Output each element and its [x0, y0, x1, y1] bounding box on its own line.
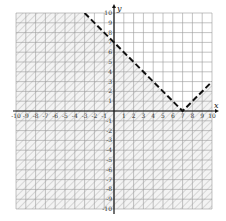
svg-text:10: 10	[104, 9, 112, 16]
svg-text:4: 4	[151, 112, 155, 119]
svg-text:10: 10	[208, 112, 216, 119]
y-axis-label: y	[116, 4, 122, 13]
svg-text:-6: -6	[52, 112, 58, 119]
svg-text:-10: -10	[102, 205, 112, 212]
svg-text:-5: -5	[62, 112, 68, 119]
svg-text:-8: -8	[33, 112, 39, 119]
svg-text:6: 6	[108, 48, 112, 55]
svg-text:1: 1	[108, 97, 112, 104]
svg-text:-7: -7	[106, 176, 112, 183]
svg-text:-9: -9	[23, 112, 29, 119]
svg-text:6: 6	[171, 112, 175, 119]
svg-text:-8: -8	[106, 185, 112, 192]
svg-text:-2: -2	[106, 127, 112, 134]
svg-text:8: 8	[190, 112, 194, 119]
svg-text:2: 2	[108, 87, 112, 94]
x-axis-label: x	[214, 101, 219, 110]
svg-text:-2: -2	[91, 112, 97, 119]
svg-text:-9: -9	[106, 195, 112, 202]
svg-text:8: 8	[108, 29, 112, 36]
svg-text:-6: -6	[106, 166, 112, 173]
svg-text:5: 5	[161, 112, 165, 119]
svg-text:-1: -1	[106, 117, 112, 124]
svg-text:7: 7	[181, 112, 185, 119]
svg-text:-3: -3	[82, 112, 88, 119]
svg-text:4: 4	[108, 68, 112, 75]
svg-text:9: 9	[108, 19, 112, 26]
svg-text:1: 1	[122, 112, 126, 119]
svg-text:-10: -10	[11, 112, 21, 119]
svg-text:3: 3	[141, 112, 145, 119]
coordinate-plane: -10-9-8-7-6-5-4-3-2-112345678910-10-9-8-…	[0, 0, 226, 221]
svg-text:-7: -7	[42, 112, 48, 119]
svg-text:9: 9	[200, 112, 204, 119]
svg-text:3: 3	[108, 78, 112, 85]
svg-text:-5: -5	[106, 156, 112, 163]
svg-text:5: 5	[108, 58, 112, 65]
svg-text:-3: -3	[106, 136, 112, 143]
svg-text:-4: -4	[106, 146, 112, 153]
svg-text:2: 2	[132, 112, 136, 119]
svg-text:-4: -4	[72, 112, 78, 119]
